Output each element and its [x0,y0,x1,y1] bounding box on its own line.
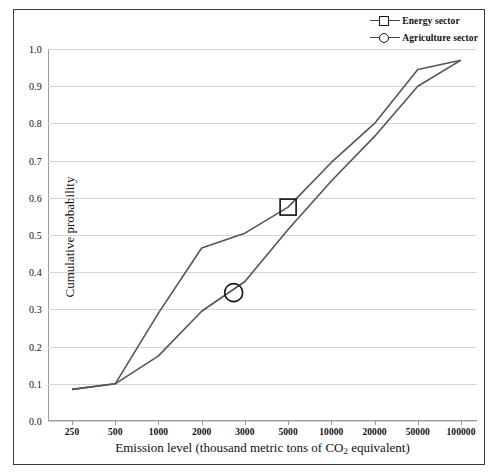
x-tick-label: 3000 [235,427,254,437]
y-tick-label: 1.0 [29,44,42,55]
y-tick-label: 0.7 [29,155,42,166]
x-tick-mark [245,421,246,425]
gridline [48,421,477,422]
y-tick-label: 0.8 [29,118,42,129]
square-marker-icon [370,14,400,28]
legend-item-energy-sector: Energy sector [370,14,460,28]
y-tick-label: 0.0 [29,416,42,427]
x-tick-label: 5000 [278,427,297,437]
x-tick-mark [461,421,462,425]
x-tick-label: 10000 [319,427,343,437]
series-line-agriculture-sector [72,60,461,389]
x-tick-mark [115,421,116,425]
x-axis-title-suffix: equivalent) [348,440,410,455]
x-tick-mark [158,421,159,425]
circle-marker-icon [370,31,400,45]
y-tick-label: 0.4 [29,267,42,278]
x-tick-mark [331,421,332,425]
y-tick-label: 0.5 [29,230,42,241]
x-tick-label: 250 [65,427,80,437]
series-line-energy-sector [72,60,461,389]
legend-label-agriculture-sector: Agriculture sector [400,33,478,43]
legend-item-agriculture-sector: Agriculture sector [370,31,478,45]
x-tick-mark [288,421,289,425]
x-axis-title-prefix: Emission level (thousand metric tons of … [115,440,343,455]
x-axis-title-subscript: 2 [343,446,348,456]
y-tick-label: 0.2 [29,341,42,352]
x-tick-label: 50000 [406,427,430,437]
y-tick-label: 0.9 [29,81,42,92]
y-tick-label: 0.1 [29,378,42,389]
x-tick-mark [375,421,376,425]
y-tick-label: 0.6 [29,192,42,203]
x-tick-label: 2000 [192,427,211,437]
x-tick-label: 100000 [446,427,475,437]
x-axis-title: Emission level (thousand metric tons of … [48,440,477,456]
x-tick-mark [418,421,419,425]
x-tick-mark [72,421,73,425]
x-tick-label: 20000 [362,427,386,437]
chart-legend: Energy sector Agriculture sector [370,14,478,45]
x-tick-label: 1000 [149,427,168,437]
legend-label-energy-sector: Energy sector [400,16,460,26]
x-tick-mark [202,421,203,425]
x-tick-label: 500 [108,427,123,437]
plot-area: 0.00.10.20.30.40.50.60.70.80.91.0 250500… [48,49,477,421]
data-curves [48,49,477,421]
chart-figure: Energy sector Agriculture sector Cumulat… [13,9,485,465]
y-tick-label: 0.3 [29,304,42,315]
